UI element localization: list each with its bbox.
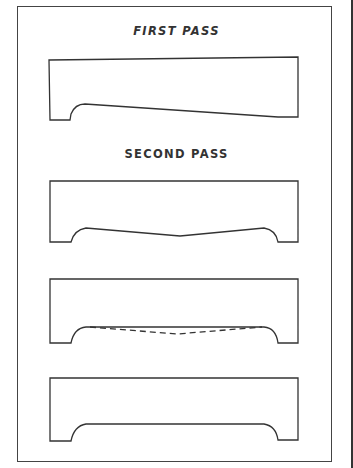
dashed-v-line (90, 327, 262, 334)
final-profile (50, 378, 298, 441)
second-pass-profile-v (50, 181, 298, 242)
profiles-diagram (0, 0, 353, 468)
first-pass-profile (49, 57, 298, 120)
